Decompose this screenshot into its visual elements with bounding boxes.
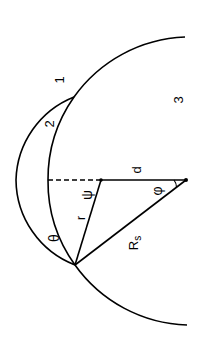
region-3-label: 3 (171, 96, 186, 103)
psi-label: ψ (79, 190, 95, 200)
theta-label: θ (46, 234, 62, 242)
phi-angle-arc (174, 180, 177, 187)
rs-subscript: s (132, 236, 143, 241)
region-1-label: 1 (52, 76, 67, 83)
large-sphere-arc (48, 37, 187, 325)
region-2-label: 2 (42, 120, 57, 127)
distance-d-label: d (129, 166, 144, 173)
geometry-diagram: 1 2 3 d r ψ φ θ Rs (0, 0, 213, 354)
center-point (184, 178, 188, 182)
radius-r-label: r (74, 216, 88, 220)
rs-main: R (126, 241, 141, 250)
radius-rs-label: Rs (126, 236, 143, 250)
foot-point (99, 178, 103, 182)
phi-label: φ (149, 186, 165, 195)
